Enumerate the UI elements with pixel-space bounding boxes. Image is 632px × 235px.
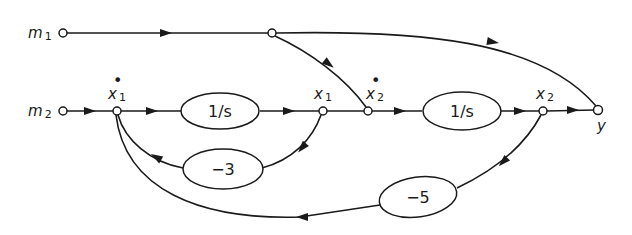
arrow-icon xyxy=(84,107,96,115)
svg-text:−5: −5 xyxy=(406,188,430,207)
arrow-icon xyxy=(160,29,172,37)
arrow-icon xyxy=(486,37,499,47)
block-int1: 1/s xyxy=(181,93,259,129)
signal-flow-graph: 1/s −3 1/s −5 m1 m2 x1 • x1 x2 • x2 y xyxy=(0,0,632,235)
node-y xyxy=(594,106,603,115)
node-x1 xyxy=(319,107,327,115)
arrow-icon xyxy=(567,106,579,114)
block-int2: 1/s xyxy=(423,92,501,130)
arrow-icon xyxy=(296,213,308,221)
block-fb1: −3 xyxy=(183,149,263,189)
arrow-icon xyxy=(394,107,406,115)
arrow-icon xyxy=(496,155,510,169)
node-x1dot xyxy=(113,107,121,115)
node-x2dot xyxy=(364,107,372,115)
label-m2: m2 xyxy=(28,102,52,121)
svg-text:−3: −3 xyxy=(211,160,235,179)
label-m1: m1 xyxy=(28,24,52,43)
edge-fb1-to-x1dot xyxy=(118,115,183,168)
edge-x1-to-fb1 xyxy=(262,115,321,168)
node-m2 xyxy=(59,107,67,115)
arrow-icon xyxy=(146,107,158,115)
label-x2: x2 xyxy=(535,85,554,104)
dot-x1dot: • xyxy=(113,71,122,90)
dot-x2dot: • xyxy=(371,71,380,90)
label-y: y xyxy=(596,117,607,135)
block-fb2: −5 xyxy=(377,172,460,222)
node-x2 xyxy=(539,107,547,115)
svg-text:1/s: 1/s xyxy=(450,102,474,121)
arrow-icon xyxy=(283,107,295,115)
svg-text:1/s: 1/s xyxy=(208,102,232,121)
node-m1 xyxy=(59,29,67,37)
arrow-icon xyxy=(514,107,526,115)
label-x1: x1 xyxy=(313,85,332,104)
arrow-icon xyxy=(295,141,309,155)
node-branch xyxy=(268,29,276,37)
